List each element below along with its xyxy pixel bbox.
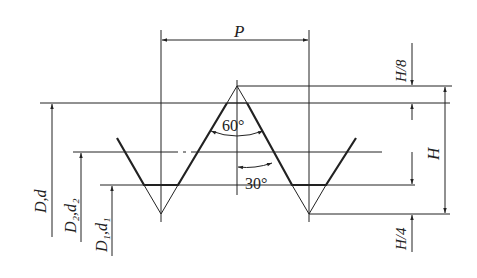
thread-profile-left-flank [117, 103, 227, 185]
h8-label: H/8 [393, 59, 409, 83]
major-diameter-label: D,d [32, 188, 49, 214]
thread-profile-right-flank [247, 103, 356, 185]
thirty-degree-arc [238, 163, 272, 168]
pitch-diameter-label: D₂,d₂ [62, 198, 79, 234]
sixty-degree-label: 60° [222, 117, 244, 134]
thirty-degree-label: 30° [245, 175, 267, 192]
h-label: H [424, 146, 443, 161]
minor-diameter-label: D₁,d₁ [93, 217, 110, 253]
h4-label: H/4 [393, 227, 409, 251]
pitch-label: P [233, 22, 244, 41]
thread-profile-diagram: P 60° 30° H/8 H/4 H D,d D₂,d₂ D₁,d₁ [0, 0, 477, 278]
